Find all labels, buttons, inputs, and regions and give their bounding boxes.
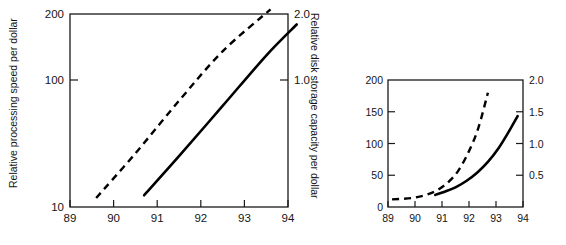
right-panel-xtick-93: 93 — [490, 212, 502, 224]
chart-left-log-panel: Relative processing speed per dollar Rel… — [0, 0, 330, 245]
left-panel-xtick-91: 91 — [151, 212, 164, 224]
left-panel-ytick-10: 10 — [51, 201, 64, 213]
right-panel-xtick-90: 90 — [409, 212, 421, 224]
right-panel-y2tick-1: 1.0 — [529, 138, 544, 150]
left-panel-xtick-93: 93 — [238, 212, 251, 224]
left-panel-dashed-series — [96, 9, 270, 198]
left-panel-ytick-100: 100 — [45, 74, 64, 86]
right-panel-dashed-series — [392, 93, 488, 200]
left-panel-y2-axis-title: Relative disk storage capacity per dolla… — [309, 13, 321, 199]
right-panel-ytick-50: 50 — [371, 169, 383, 181]
right-panel-ytick-100: 100 — [365, 138, 383, 150]
right-panel-xtick-92: 92 — [463, 212, 475, 224]
right-panel-y2tick-1-5: 1.5 — [529, 106, 544, 118]
figure-container: Relative processing speed per dollar Rel… — [0, 0, 566, 245]
chart-right-linear-panel: 200 150 100 50 0 2.0 1.5 1.0 0.5 89 90 9… — [336, 0, 566, 245]
left-panel-xtick-92: 92 — [194, 212, 207, 224]
left-panel-y2tick-2: 2.0 — [294, 8, 310, 20]
right-panel-solid-series — [435, 116, 517, 195]
right-panel-y2tick-2: 2.0 — [529, 74, 544, 86]
left-panel-xtick-94: 94 — [282, 212, 295, 224]
left-panel-xtick-89: 89 — [64, 212, 77, 224]
left-panel-xtick-90: 90 — [107, 212, 120, 224]
right-panel-xtick-94: 94 — [517, 212, 529, 224]
left-panel-y-axis-title: Relative processing speed per dollar — [7, 18, 19, 188]
right-panel-ytick-150: 150 — [365, 106, 383, 118]
right-panel-y2tick-0-5: 0.5 — [529, 169, 544, 181]
right-panel-xtick-91: 91 — [436, 212, 448, 224]
right-panel-xtick-89: 89 — [382, 212, 394, 224]
left-panel-ytick-200: 200 — [45, 8, 64, 20]
right-panel-ytick-200: 200 — [365, 74, 383, 86]
left-panel-plot-frame — [70, 14, 288, 207]
left-panel-solid-series — [144, 24, 297, 195]
left-panel-y2tick-1: 1.0 — [294, 74, 310, 86]
